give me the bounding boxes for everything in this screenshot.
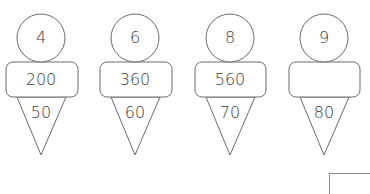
box-value-3: 560: [200, 71, 260, 89]
answer-box-corner: [329, 173, 370, 194]
cone-value-1: 50: [11, 104, 71, 122]
box-value-1: 200: [11, 71, 71, 89]
cone-value-4: 80: [294, 104, 354, 122]
circle-value-4: 9: [294, 29, 354, 47]
circle-value-1: 4: [11, 29, 71, 47]
circle-value-3: 8: [200, 29, 260, 47]
middle-box-4: [289, 62, 360, 97]
cone-value-3: 70: [200, 104, 260, 122]
circle-value-2: 6: [105, 29, 165, 47]
cone-value-2: 60: [105, 104, 165, 122]
box-value-2: 360: [105, 71, 165, 89]
